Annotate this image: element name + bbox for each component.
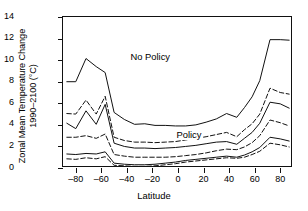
x-axis-tick [280, 168, 281, 173]
y-axis-tick-label: 12 [0, 33, 14, 42]
y-axis-title-line1: Zonal Mean Temperature Change [17, 29, 28, 163]
y-axis-tick-label: 8 [0, 76, 14, 85]
x-axis-tick [204, 168, 205, 173]
series-line [67, 143, 289, 166]
x-axis-tick [255, 168, 256, 173]
y-axis-tick [58, 168, 63, 169]
x-axis-tick [178, 168, 179, 173]
y-axis-tick [58, 103, 63, 104]
x-axis-tick [229, 168, 230, 173]
series-line [67, 40, 289, 126]
y-axis-tick [58, 146, 63, 147]
y-axis-tick-label: 0 [0, 163, 14, 172]
y-axis-tick [58, 82, 63, 83]
y-axis-tick [58, 17, 63, 18]
y-axis-tick [58, 60, 63, 61]
plot-area: –80–60–40–20020406080No PolicyPolicy [62, 16, 292, 167]
y-axis-tick-label: 6 [0, 98, 14, 107]
y-axis-tick [58, 125, 63, 126]
x-axis-title: Latitude [0, 190, 308, 201]
x-axis-tick [152, 168, 153, 173]
annotation-no-policy: No Policy [129, 51, 171, 62]
x-axis-tick [127, 168, 128, 173]
y-axis-title: Zonal Mean Temperature Change 1990–2100 … [11, 12, 45, 180]
annotation-policy: Policy [175, 129, 202, 140]
y-axis-title-line2: 1990–2100 (°C) [28, 64, 39, 128]
series-canvas [63, 17, 293, 168]
y-axis-tick-label: 2 [0, 141, 14, 150]
x-axis-tick [76, 168, 77, 173]
x-axis-tick [101, 168, 102, 173]
y-axis-tick [58, 39, 63, 40]
y-axis-tick-label: 14 [0, 12, 14, 21]
chart-figure: Zonal Mean Temperature Change 1990–2100 … [0, 0, 308, 211]
y-axis-tick-label: 4 [0, 119, 14, 128]
x-axis-tick-label: 80 [260, 175, 300, 184]
y-axis-tick-label: 10 [0, 55, 14, 64]
